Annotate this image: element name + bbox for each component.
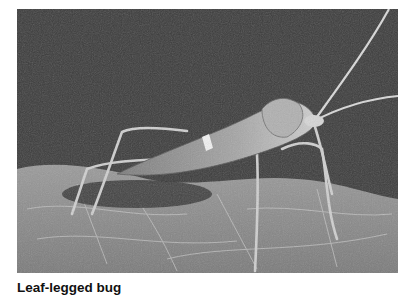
bug-photo [17,9,398,273]
figure-caption: Leaf-legged bug [17,280,121,295]
bug-photo-illustration [17,9,398,273]
photo-grain [17,9,398,273]
